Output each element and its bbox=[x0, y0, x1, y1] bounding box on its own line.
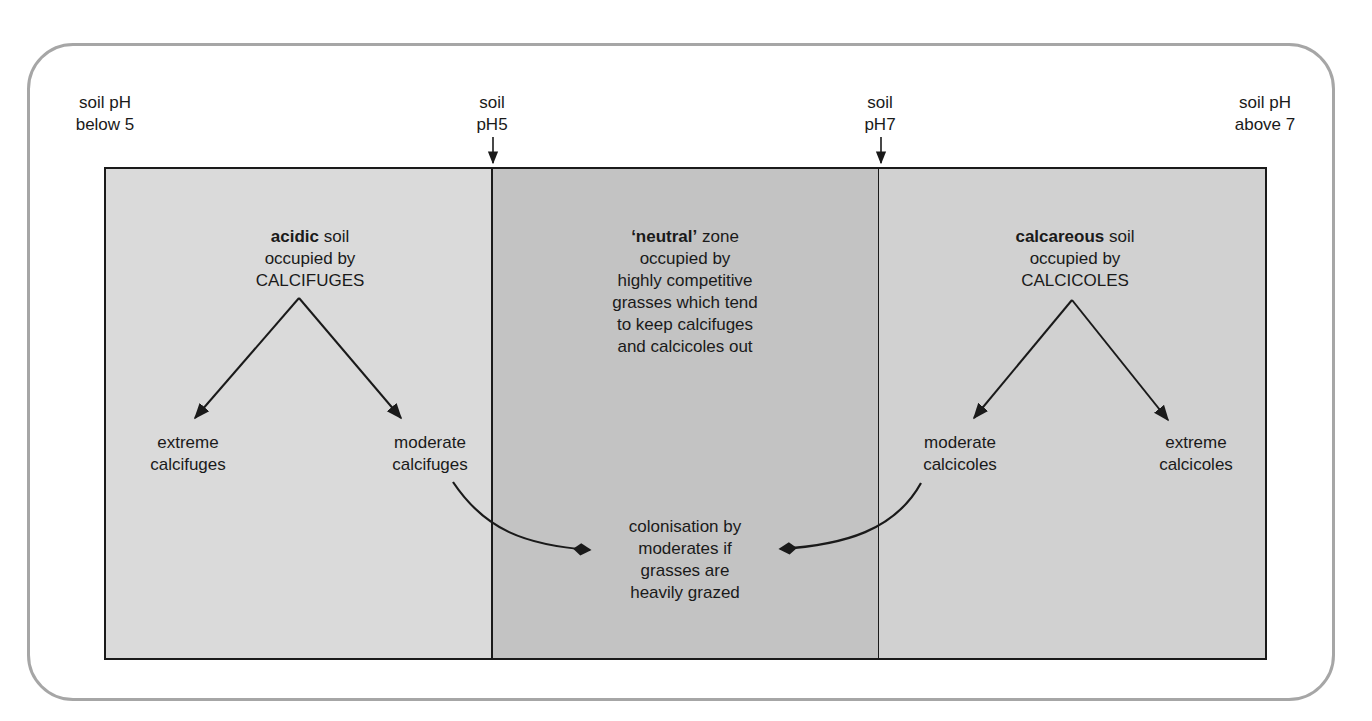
label-ph7: soil pH7 bbox=[850, 92, 910, 136]
extreme-calcifuges: extreme calcifuges bbox=[128, 432, 248, 476]
label-ph-below-5: soil pH below 5 bbox=[60, 92, 150, 136]
label-ph-above-7: soil pH above 7 bbox=[1220, 92, 1310, 136]
moderate-calcicoles: moderate calcicoles bbox=[900, 432, 1020, 476]
extreme-calcicoles: extreme calcicoles bbox=[1136, 432, 1256, 476]
colonisation-note: colonisation by moderates if grasses are… bbox=[590, 516, 780, 604]
calcareous-heading: calcareous soil occupied by CALCICOLES bbox=[960, 226, 1190, 292]
label-ph5: soil pH5 bbox=[462, 92, 522, 136]
moderate-calcifuges: moderate calcifuges bbox=[370, 432, 490, 476]
acidic-heading: acidic soil occupied by CALCIFUGES bbox=[200, 226, 420, 292]
neutral-description: ‘neutral’ zone occupied by highly compet… bbox=[555, 226, 815, 358]
